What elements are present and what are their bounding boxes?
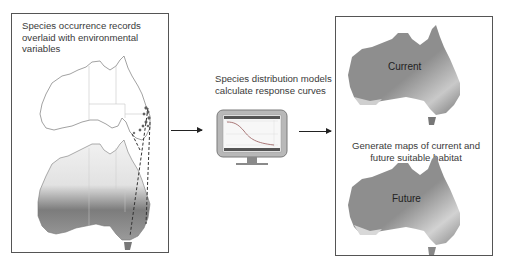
current-habitat-map — [336, 17, 494, 127]
future-label: Future — [392, 193, 421, 204]
arrow-to-output — [299, 131, 331, 132]
current-label: Current — [388, 61, 421, 72]
occurrence-records-panel: Species occurrence records overlaid with… — [11, 13, 169, 253]
occurrence-map — [12, 14, 170, 254]
monitor-response-curve-icon — [214, 109, 290, 171]
habitat-maps-panel: Current Generate maps of current and fut… — [335, 16, 493, 256]
model-caption: Species distribution models calculate re… — [215, 73, 335, 96]
arrow-to-model — [171, 130, 202, 131]
